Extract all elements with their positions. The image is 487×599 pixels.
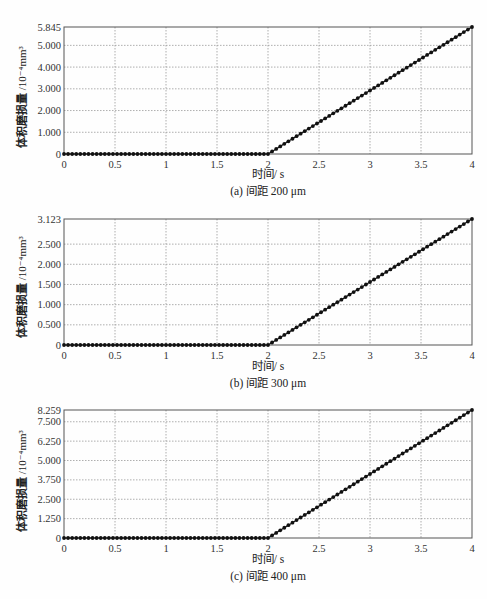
data-point-marker [238,536,242,540]
data-point-marker [397,454,401,458]
data-point-marker [331,495,335,499]
data-point-marker [307,511,311,515]
data-point-marker [115,536,119,540]
data-point-marker [299,516,303,520]
data-point-marker [470,408,474,412]
data-point-marker [352,482,356,486]
data-point-marker [62,536,66,540]
data-point-marker [221,536,225,540]
data-point-marker [205,536,209,540]
data-point-marker [111,536,115,540]
data-point-marker [103,536,107,540]
data-point-marker [127,536,131,540]
y-tick-label: 7.500 [37,416,61,427]
data-point-marker [462,413,466,417]
data-point-marker [197,536,201,540]
data-point-marker [131,536,135,540]
data-point-marker [421,439,425,443]
data-point-marker [368,472,372,476]
data-point-marker [74,536,78,540]
data-point-marker [262,536,266,540]
data-point-marker [107,536,111,540]
data-point-marker [315,505,319,509]
data-point-marker [311,508,315,512]
data-point-marker [278,528,282,532]
data-point-marker [364,475,368,479]
data-point-marker [454,418,458,422]
data-point-marker [274,531,278,535]
data-point-marker [356,480,360,484]
y-tick-label: 0 [56,533,61,544]
data-point-marker [360,477,364,481]
data-point-marker [78,536,82,540]
data-point-marker [458,416,462,420]
caption-c: (c) 间距 400 μm [0,567,487,583]
data-point-marker [233,536,237,540]
data-point-marker [66,536,70,540]
data-point-marker [168,536,172,540]
y-axis-label: 体积磨损量 /10⁻⁴mm³ [13,430,29,532]
data-point-marker [323,500,327,504]
data-point-marker [344,487,348,491]
data-point-marker [242,536,246,540]
data-point-marker [164,536,168,540]
data-point-marker [95,536,99,540]
data-point-marker [229,536,233,540]
data-point-marker [209,536,213,540]
data-point-marker [70,536,74,540]
data-point-marker [466,411,470,415]
data-point-marker [372,470,376,474]
data-point-marker [87,536,91,540]
data-point-marker [201,536,205,540]
data-point-marker [225,536,229,540]
data-point-marker [119,536,123,540]
data-point-marker [442,426,446,430]
y-tick-label: 8.259 [37,405,61,416]
data-point-marker [83,536,87,540]
data-point-marker [160,536,164,540]
x-axis-label: 时间/ s [0,550,487,566]
data-point-marker [148,536,152,540]
chart-plot-c: 00.511.522.533.5401.2502.5003.7505.0006.… [0,0,487,599]
data-point-marker [254,536,258,540]
data-point-marker [393,457,397,461]
y-tick-label: 6.250 [37,436,61,447]
y-axis-label-unit: /10⁻⁴mm³ [16,430,28,474]
data-point-marker [156,536,160,540]
data-point-marker [282,526,286,530]
data-point-marker [446,423,450,427]
data-point-marker [287,523,291,527]
data-point-marker [389,459,393,463]
data-point-marker [180,536,184,540]
data-point-marker [250,536,254,540]
data-point-marker [136,536,140,540]
data-point-marker [433,431,437,435]
data-point-marker [213,536,217,540]
data-point-marker [429,434,433,438]
data-point-marker [217,536,221,540]
y-tick-label: 1.250 [37,513,61,524]
data-point-marker [189,536,193,540]
data-point-marker [295,518,299,522]
data-point-marker [176,536,180,540]
data-point-marker [327,498,331,502]
data-point-marker [450,421,454,425]
y-axis-label-main: 体积磨损量 [16,474,28,532]
data-point-marker [144,536,148,540]
data-point-marker [348,485,352,489]
data-point-marker [409,447,413,451]
data-point-marker [303,513,307,517]
data-point-marker [172,536,176,540]
data-point-marker [380,464,384,468]
data-point-marker [405,449,409,453]
data-point-marker [291,521,295,525]
data-point-marker [246,536,250,540]
data-point-marker [99,536,103,540]
data-point-marker [425,436,429,440]
data-point-marker [319,503,323,507]
data-point-marker [152,536,156,540]
data-point-marker [185,536,189,540]
data-point-marker [270,534,274,538]
data-point-marker [193,536,197,540]
data-point-marker [258,536,262,540]
